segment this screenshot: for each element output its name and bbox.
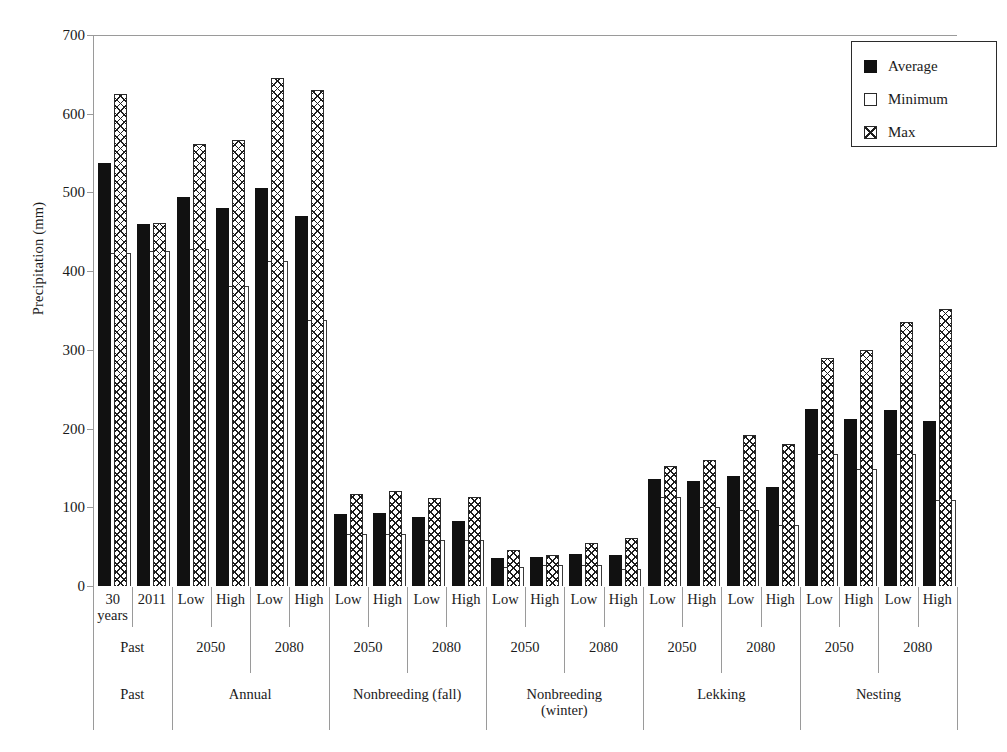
x-tick-label-scenario: High <box>368 587 407 607</box>
bar-max <box>939 309 952 586</box>
x-axis-separator <box>250 627 251 673</box>
bar-average <box>452 521 465 586</box>
bar-max <box>860 350 873 586</box>
bar-max <box>507 550 520 586</box>
x-tick-label-scenario: Low <box>486 587 525 607</box>
legend-label: Minimum <box>888 91 948 108</box>
x-axis-separator <box>329 627 330 673</box>
x-axis-separator <box>486 672 487 730</box>
x-axis-separator <box>682 587 683 627</box>
x-tick-label-period: 2050 <box>172 633 251 655</box>
y-tick-label: 200 <box>39 421 85 436</box>
x-axis-separator <box>878 587 879 627</box>
x-tick-label-scenario: Low <box>407 587 446 607</box>
bar-average <box>648 479 661 586</box>
x-tick-label-scenario: Low <box>800 587 839 607</box>
x-axis-separator <box>132 587 133 627</box>
x-axis-separator <box>172 627 173 673</box>
x-axis-separator <box>407 627 408 673</box>
x-tick-label-scenario: Low <box>564 587 603 607</box>
bar-average <box>923 421 936 586</box>
x-tick-label-period: 2080 <box>721 633 800 655</box>
bar-average <box>373 513 386 586</box>
bar-max <box>546 555 559 586</box>
x-tick-label-scenario: High <box>289 587 328 607</box>
x-tick-label-period: 2050 <box>800 633 879 655</box>
x-axis-separator <box>368 587 369 627</box>
bar-average <box>295 216 308 586</box>
bar-average <box>766 487 779 586</box>
x-tick-label-scenario: Low <box>643 587 682 607</box>
bar-average <box>255 188 268 586</box>
x-axis-separator <box>486 627 487 673</box>
plot-area <box>93 35 957 586</box>
x-tick-label-scenario: 2011 <box>132 587 171 607</box>
x-axis-separator <box>289 587 290 627</box>
x-axis-separator <box>957 627 958 673</box>
bar-max <box>782 444 795 586</box>
x-axis-separator <box>172 587 173 627</box>
x-axis-separator <box>329 672 330 730</box>
x-tick-label-scenario: Low <box>878 587 917 607</box>
bar-max <box>232 140 245 586</box>
x-axis-separator <box>329 587 330 627</box>
x-axis-separator <box>721 627 722 673</box>
bar-average <box>137 224 150 586</box>
bar-max <box>311 90 324 586</box>
bar-max <box>468 497 481 586</box>
bar-average <box>687 481 700 586</box>
x-tick-label-scenario: High <box>446 587 485 607</box>
y-tick-label: 700 <box>39 28 85 43</box>
x-axis-separator <box>211 587 212 627</box>
bar-max <box>193 144 206 586</box>
x-axis-separator <box>800 672 801 730</box>
x-axis-separator <box>564 627 565 673</box>
bar-average <box>805 409 818 586</box>
y-tick-label: 100 <box>39 500 85 515</box>
y-tick-label: 0 <box>39 579 85 594</box>
y-tick-label: 600 <box>39 106 85 121</box>
x-axis-separator <box>250 587 251 627</box>
x-axis-separator <box>172 672 173 730</box>
legend-swatch-avg-icon <box>864 60 877 73</box>
bar-average <box>412 517 425 586</box>
bar-average <box>844 419 857 586</box>
x-tick-label-scenario: High <box>918 587 957 607</box>
bar-average <box>334 514 347 586</box>
bar-average <box>98 163 111 586</box>
x-axis-separator <box>721 587 722 627</box>
x-axis-tier-scenario: 30years2011LowHighLowHighLowHighLowHighL… <box>93 587 957 633</box>
x-tick-label-scenario: High <box>211 587 250 607</box>
x-axis-separator <box>525 587 526 627</box>
x-axis-separator <box>93 587 94 627</box>
x-tick-label-period: 2050 <box>486 633 565 655</box>
x-axis-tier-period: Past205020802050208020502080205020802050… <box>93 633 957 677</box>
x-axis-line <box>93 35 957 36</box>
bar-max <box>153 223 166 586</box>
x-tick-label-group: Nonbreeding (fall) <box>329 680 486 702</box>
legend-label: Average <box>888 58 938 75</box>
bar-max <box>664 466 677 586</box>
x-tick-label-scenario: Low <box>329 587 368 607</box>
bar-max <box>743 435 756 586</box>
y-tick-label: 500 <box>39 185 85 200</box>
x-axis-separator <box>93 672 94 730</box>
x-tick-label-group: Past <box>93 680 172 702</box>
x-axis-separator <box>957 672 958 730</box>
x-tick-label-period: 2080 <box>250 633 329 655</box>
x-tick-label-period: 2080 <box>564 633 643 655</box>
legend-item: Minimum <box>864 91 948 108</box>
bar-average <box>727 476 740 586</box>
legend-swatch-max-icon <box>864 126 877 139</box>
bar-max <box>585 543 598 586</box>
x-tick-label-scenario: High <box>682 587 721 607</box>
x-axis-separator <box>564 587 565 627</box>
x-tick-label-scenario: High <box>604 587 643 607</box>
x-axis-separator <box>918 587 919 627</box>
bar-max <box>703 460 716 586</box>
x-axis-separator <box>957 587 958 627</box>
legend-swatch-min-icon <box>864 93 877 106</box>
x-axis-separator <box>643 627 644 673</box>
x-tick-label-period: 2080 <box>407 633 486 655</box>
bar-max <box>114 94 127 586</box>
